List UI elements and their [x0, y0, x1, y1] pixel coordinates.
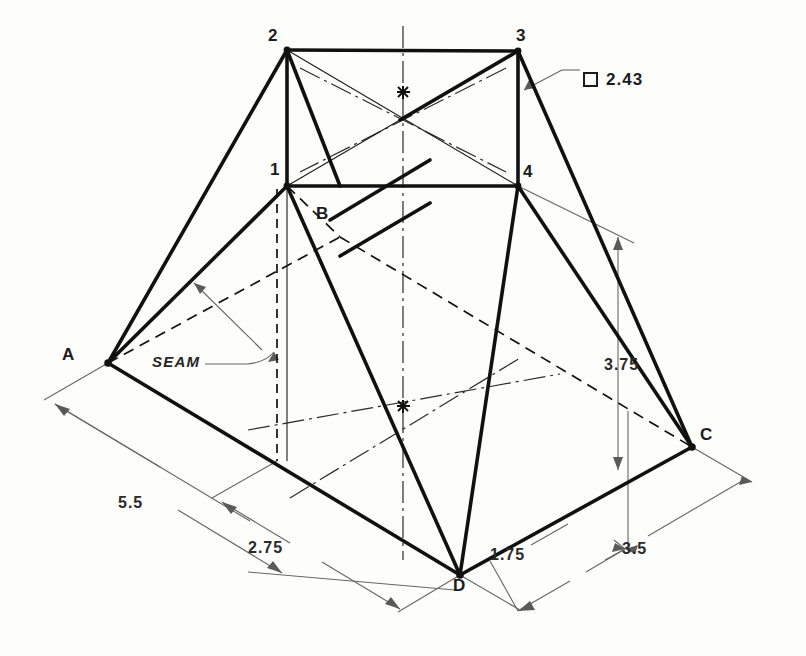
arrow-5-5-right — [267, 561, 282, 573]
vertex-label-B: B — [316, 204, 329, 224]
dim-line-5-5b — [248, 572, 455, 590]
edge-3-1-heavy — [400, 51, 518, 120]
vertex-label-D: D — [453, 576, 466, 596]
hidden-line-B-C — [340, 237, 692, 447]
center-line-base-diag2 — [290, 358, 520, 498]
vertex-label-2: 2 — [268, 26, 278, 46]
arrow-2-75-right — [385, 597, 400, 609]
dim-line-5-5-main — [55, 404, 160, 467]
dot-1 — [284, 183, 291, 190]
edge-3-1-heavy2 — [340, 203, 430, 256]
dimension-3-75: 3.75 — [604, 356, 639, 374]
object-lines-group — [108, 50, 692, 575]
edge-1-A — [108, 186, 287, 363]
dimension-5-5: 5.5 — [118, 494, 143, 512]
ext-line-A — [44, 363, 108, 400]
ext-line-base-left — [212, 461, 277, 498]
edge-2-3 — [287, 50, 518, 51]
arrow-3-75-top — [613, 237, 623, 250]
dim-line-3-5b — [648, 481, 742, 536]
dot-4 — [515, 183, 522, 190]
arrow-5-5-left — [55, 404, 70, 416]
dot-C — [688, 443, 696, 451]
note-2-43: 2.43 — [606, 70, 643, 90]
leader-line-body — [194, 283, 262, 350]
edge-3-C — [518, 51, 692, 447]
edge-2-A — [108, 50, 287, 363]
dim-line-1-75a — [490, 561, 518, 611]
dot-3 — [515, 48, 522, 55]
dot-2 — [284, 47, 291, 54]
vertex-label-A: A — [62, 345, 75, 365]
edge-4-D — [460, 186, 518, 575]
dimension-3-5: 3.5 — [622, 540, 647, 558]
ext-line-D-right — [460, 575, 520, 610]
hidden-line-1-B — [287, 186, 340, 237]
dot-A — [104, 359, 112, 367]
element-lines-group — [108, 50, 692, 461]
edge-A-D — [108, 363, 460, 575]
edge-1-D — [287, 186, 460, 575]
vertex-dots-group — [104, 47, 696, 579]
arrow-3-75-bottom — [613, 457, 623, 470]
vertex-label-C: C — [700, 425, 713, 445]
dimension-2-75: 2.75 — [248, 539, 283, 557]
edge-4-C — [518, 186, 692, 447]
technical-drawing-canvas: 2 3 1 4 B A C D SEAM 2.43 5.5 2.75 1.75 … — [0, 0, 806, 656]
center-lines-group — [248, 26, 560, 560]
vertex-label-3: 3 — [516, 26, 526, 46]
seam-label: SEAM — [152, 353, 200, 370]
vertex-label-1: 1 — [270, 160, 280, 180]
square-symbol-icon — [583, 72, 598, 87]
vertex-label-4: 4 — [523, 162, 533, 182]
leader-curve-seam — [248, 352, 274, 364]
ext-line-D-left — [398, 575, 460, 612]
dimension-1-75: 1.75 — [490, 546, 525, 564]
isometric-drawing-svg — [0, 0, 806, 656]
